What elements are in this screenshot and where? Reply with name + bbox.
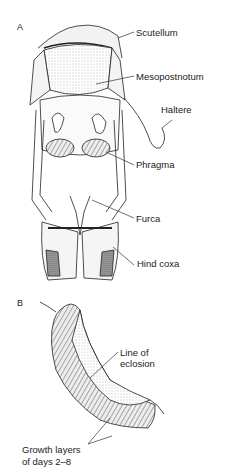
thorax-drawing	[30, 25, 165, 280]
panel-label-a: A	[17, 22, 23, 32]
label-hind-coxa: Hind coxa	[137, 258, 179, 269]
label-growth-layers-2: of days 2–8	[22, 456, 71, 467]
label-phragma: Phragma	[136, 159, 175, 170]
label-haltere: Haltere	[161, 104, 192, 115]
label-line-of-eclosion-2: eclosion	[120, 358, 155, 369]
label-growth-layers-1: Growth layers	[22, 444, 81, 455]
label-line-of-eclosion-1: Line of	[120, 347, 149, 358]
label-scutellum: Scutellum	[136, 27, 178, 38]
panel-label-b: B	[17, 298, 23, 308]
label-furca: Furca	[136, 213, 160, 224]
label-mesopostnotum: Mesopostnotum	[136, 71, 204, 82]
